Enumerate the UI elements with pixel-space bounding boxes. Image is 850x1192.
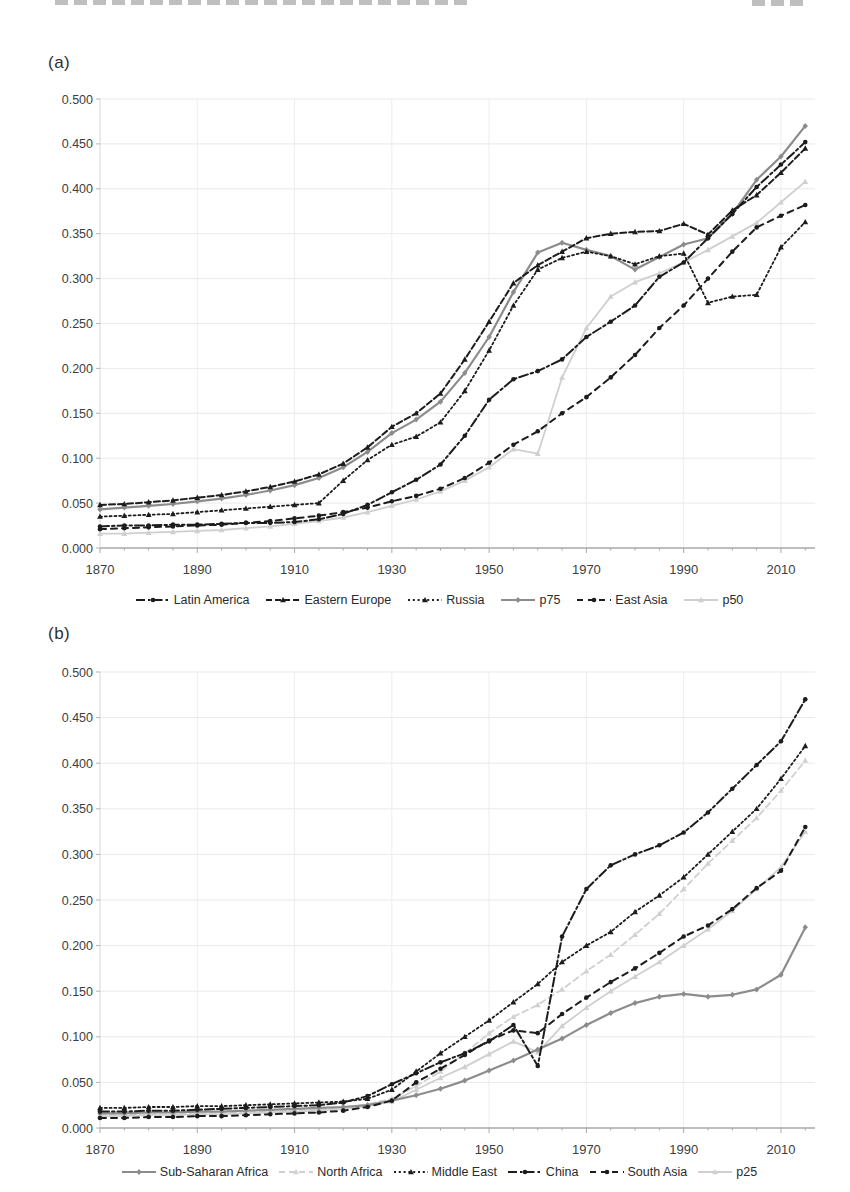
legend-label: Latin America (174, 593, 250, 607)
svg-text:1970: 1970 (572, 562, 601, 577)
legend-item-china: China (507, 1165, 579, 1179)
legend-line-sample (576, 594, 612, 606)
legend-item-eastern-europe: Eastern Europe (265, 593, 391, 607)
legend-line-sample (135, 594, 171, 606)
legend-label: China (546, 1165, 579, 1179)
series-east-asia (98, 203, 808, 532)
legend-line-sample (407, 594, 443, 606)
series-p25 (97, 829, 808, 1119)
svg-text:0.450: 0.450 (62, 137, 93, 151)
chart-b-legend: Sub-Saharan AfricaNorth AfricaMiddle Eas… (0, 1165, 850, 1179)
series-p75 (97, 123, 808, 512)
svg-text:1950: 1950 (475, 1142, 504, 1157)
y-axis-labels-a: 0.0000.0500.1000.1500.2000.2500.3000.350… (62, 93, 93, 556)
legend-label: Sub-Saharan Africa (160, 1165, 268, 1179)
svg-text:0.250: 0.250 (62, 894, 93, 908)
svg-text:0.000: 0.000 (62, 542, 93, 556)
legend-line-sample (393, 1166, 429, 1178)
svg-text:1950: 1950 (475, 562, 504, 577)
legend-label: South Asia (628, 1165, 688, 1179)
svg-text:0.500: 0.500 (62, 666, 93, 680)
svg-text:0.050: 0.050 (62, 1076, 93, 1090)
svg-text:1910: 1910 (280, 562, 309, 577)
legend-line-sample (265, 594, 301, 606)
gridlines-b (100, 672, 815, 1128)
legend-item-north-africa: North Africa (278, 1165, 382, 1179)
chart-a-legend: Latin AmericaEastern EuropeRussiap75East… (0, 593, 850, 607)
legend-item-sub-saharan-africa: Sub-Saharan Africa (121, 1165, 268, 1179)
x-axis-labels-a: 18701890191019301950197019902010 (86, 562, 796, 577)
legend-item-south-asia: South Asia (589, 1165, 688, 1179)
svg-text:1910: 1910 (280, 1142, 309, 1157)
series-middle-east (97, 743, 808, 1110)
svg-text:1870: 1870 (86, 1142, 115, 1157)
svg-text:1870: 1870 (86, 562, 115, 577)
legend-item-east-asia: East Asia (576, 593, 667, 607)
y-axis-labels-b: 0.0000.0500.1000.1500.2000.2500.3000.350… (62, 666, 93, 1136)
legend-label: Eastern Europe (304, 593, 391, 607)
svg-text:0.050: 0.050 (62, 497, 93, 511)
legend-label: p75 (539, 593, 560, 607)
series-south-asia (98, 825, 808, 1121)
chart-b: 0.0000.0500.1000.1500.2000.2500.3000.350… (62, 666, 815, 1158)
legend-item-middle-east: Middle East (393, 1165, 497, 1179)
legend-line-sample (507, 1166, 543, 1178)
svg-text:1930: 1930 (377, 1142, 406, 1157)
svg-text:0.200: 0.200 (62, 939, 93, 953)
svg-text:0.100: 0.100 (62, 1030, 93, 1044)
legend-line-sample (121, 1166, 157, 1178)
page: (a) (b) 0.0000.0500.1000.1500.2000.2500.… (0, 0, 850, 1192)
axes-b (96, 672, 815, 1133)
svg-text:1990: 1990 (669, 1142, 698, 1157)
svg-text:0.150: 0.150 (62, 985, 93, 999)
svg-text:0.100: 0.100 (62, 452, 93, 466)
svg-text:0.300: 0.300 (62, 272, 93, 286)
svg-text:1990: 1990 (669, 562, 698, 577)
svg-text:1890: 1890 (183, 562, 212, 577)
svg-text:2010: 2010 (766, 1142, 795, 1157)
svg-text:0.200: 0.200 (62, 362, 93, 376)
svg-text:0.400: 0.400 (62, 757, 93, 771)
legend-label: North Africa (317, 1165, 382, 1179)
legend-label: East Asia (615, 593, 667, 607)
x-axis-labels-b: 18701890191019301950197019902010 (86, 1142, 796, 1157)
svg-text:0.450: 0.450 (62, 711, 93, 725)
legend-item-p75: p75 (500, 593, 560, 607)
svg-text:0.350: 0.350 (62, 802, 93, 816)
legend-line-sample (278, 1166, 314, 1178)
legend-line-sample (697, 1166, 733, 1178)
legend-line-sample (500, 594, 536, 606)
svg-text:2010: 2010 (766, 562, 795, 577)
series-sub-saharan-africa (97, 924, 808, 1116)
svg-text:0.300: 0.300 (62, 848, 93, 862)
svg-text:1970: 1970 (572, 1142, 601, 1157)
chart-a: 0.0000.0500.1000.1500.2000.2500.3000.350… (62, 93, 815, 578)
legend-label: Middle East (432, 1165, 497, 1179)
legend-line-sample (589, 1166, 625, 1178)
legend-line-sample (683, 594, 719, 606)
series-eastern-europe (97, 145, 808, 507)
legend-item-p25: p25 (697, 1165, 757, 1179)
svg-text:0.150: 0.150 (62, 407, 93, 421)
series-latin-america (98, 140, 808, 529)
svg-text:0.400: 0.400 (62, 182, 93, 196)
svg-text:1930: 1930 (377, 562, 406, 577)
series-north-africa (97, 757, 808, 1117)
legend-label: Russia (446, 593, 484, 607)
svg-text:0.350: 0.350 (62, 227, 93, 241)
svg-text:1890: 1890 (183, 1142, 212, 1157)
svg-text:0.000: 0.000 (62, 1122, 93, 1136)
series-china (98, 697, 808, 1114)
legend-item-russia: Russia (407, 593, 484, 607)
svg-text:0.250: 0.250 (62, 317, 93, 331)
legend-item-p50: p50 (683, 593, 743, 607)
legend-label: p25 (736, 1165, 757, 1179)
legend-item-latin-america: Latin America (135, 593, 250, 607)
legend-label: p50 (722, 593, 743, 607)
svg-text:0.500: 0.500 (62, 93, 93, 107)
